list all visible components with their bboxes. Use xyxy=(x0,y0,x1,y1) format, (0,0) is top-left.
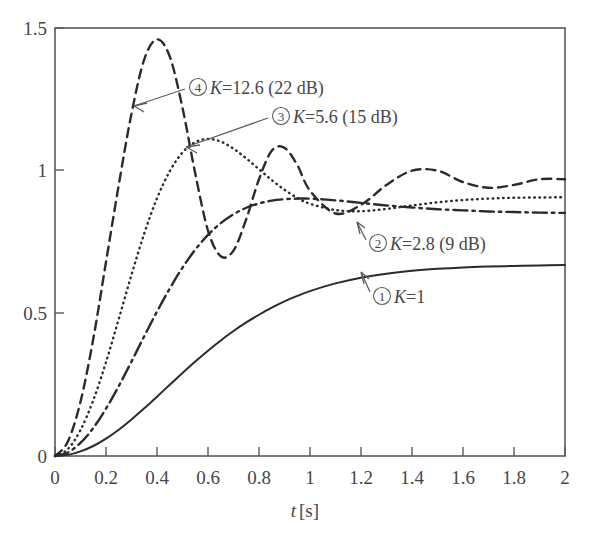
x-axis-labels: 0 0.2 0.4 0.6 0.8 1 1.2 1.4 1.6 1.8 2 xyxy=(50,467,570,488)
annotation-series-2: 2 K=2.8 (9 dB) xyxy=(357,222,486,255)
y-tick-label-0: 0 xyxy=(38,446,48,467)
annotation-series-1: 1 K=1 xyxy=(361,272,425,307)
marker-number-3: 3 xyxy=(278,109,285,124)
x-tick-label-0-6: 0.6 xyxy=(196,467,220,488)
y-tick-label-0-5: 0.5 xyxy=(23,303,47,324)
x-tick-label-0-4: 0.4 xyxy=(145,467,169,488)
annotation-series-3: 3 K=5.6 (15 dB) xyxy=(186,107,398,153)
y-axis-ticks xyxy=(55,28,64,456)
annotation-label-2: K=2.8 (9 dB) xyxy=(389,234,486,255)
annotation-label-3: K=5.6 (15 dB) xyxy=(292,107,398,128)
y-tick-label-1-5: 1.5 xyxy=(23,18,47,39)
curve-group xyxy=(55,39,565,456)
y-axis-labels: 0 0.5 1 1.5 xyxy=(23,18,47,467)
x-axis-ticks xyxy=(55,447,565,456)
x-tick-label-0: 0 xyxy=(50,467,60,488)
x-tick-label-1: 1 xyxy=(305,467,315,488)
x-tick-label-2: 2 xyxy=(560,467,570,488)
curve-series-2 xyxy=(55,198,565,456)
annotation-label-1: K=1 xyxy=(393,287,425,307)
x-tick-label-1-6: 1.6 xyxy=(451,467,475,488)
x-tick-label-1-8: 1.8 xyxy=(502,467,526,488)
x-tick-label-0-8: 0.8 xyxy=(247,467,271,488)
marker-number-2: 2 xyxy=(375,236,382,251)
x-axis-title: t [s] xyxy=(291,500,319,521)
marker-number-4: 4 xyxy=(195,80,202,95)
y-tick-label-1: 1 xyxy=(38,160,48,181)
chart-canvas: 0 0.5 1 1.5 0 0.2 0.4 0.6 0.8 1 xyxy=(0,0,589,542)
x-tick-label-1-2: 1.2 xyxy=(349,467,373,488)
curve-series-3 xyxy=(55,139,565,456)
x-axis-title-var: t xyxy=(291,500,297,521)
x-tick-label-0-2: 0.2 xyxy=(94,467,118,488)
step-response-chart: 0 0.5 1 1.5 0 0.2 0.4 0.6 0.8 1 xyxy=(0,0,589,542)
marker-number-1: 1 xyxy=(379,289,386,304)
x-tick-label-1-4: 1.4 xyxy=(400,467,424,488)
x-axis-title-unit: [s] xyxy=(299,500,319,521)
curve-series-4 xyxy=(55,39,565,456)
annotation-label-4: K=12.6 (22 dB) xyxy=(209,78,324,99)
